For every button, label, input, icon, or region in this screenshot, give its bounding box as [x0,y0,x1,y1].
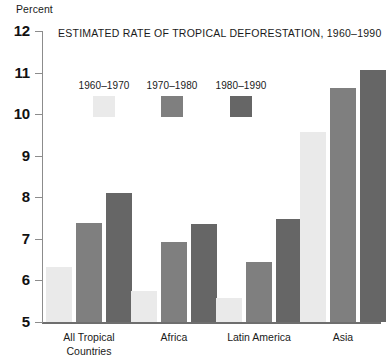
bar [76,223,102,322]
category-label: Asia [333,331,353,345]
bar [191,224,217,322]
bar [46,267,72,322]
category-label: Africa [161,331,188,345]
bar [360,70,386,322]
category-label: Latin America [227,331,291,345]
bar [106,193,132,322]
category-label: All Tropical Countries [63,331,114,358]
bar [276,219,302,322]
bar [246,262,272,322]
bar [216,298,242,322]
bar [131,291,157,322]
bar [300,132,326,322]
bar [161,242,187,322]
bar [330,88,356,322]
